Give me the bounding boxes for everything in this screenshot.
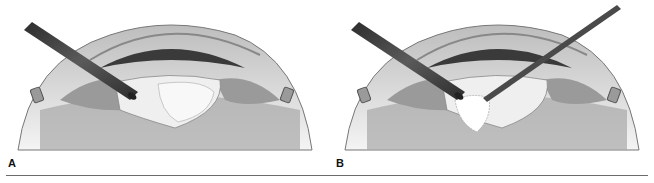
caption-divider [6, 175, 648, 176]
figure-panel-a [0, 0, 327, 160]
eye-illustration-b [327, 0, 654, 160]
panel-label-b: B [336, 157, 344, 169]
panel-label-a: A [8, 157, 16, 169]
truncated-caption [6, 180, 646, 183]
eye-illustration-a [0, 0, 327, 160]
figure-panel-b [327, 0, 654, 160]
